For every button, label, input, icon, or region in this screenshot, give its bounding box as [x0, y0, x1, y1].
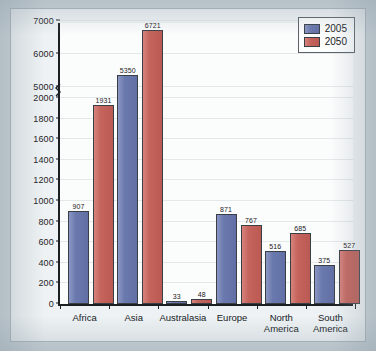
scanned-page: Population (in millions) 020040060080010… [0, 0, 376, 351]
x-axis-category-label: South America [313, 312, 348, 334]
y-axis-tick-label: 1400 [33, 155, 54, 165]
y-axis-tick-label: 400 [38, 258, 54, 268]
x-axis-category-label: Europe [217, 312, 248, 323]
x-axis-tick-mark [158, 304, 159, 309]
y-axis-tick-label: 5000 [33, 82, 54, 92]
y-axis-tick-label: 600 [38, 237, 54, 247]
y-axis-tick-label: 0 [49, 299, 54, 309]
y-axis-tick-label: 6000 [33, 49, 54, 59]
bar-value-label: 767 [245, 217, 257, 224]
x-axis-category-label: North America [264, 312, 299, 334]
bar-2050-south-america: 527 [339, 250, 360, 304]
legend-label-2050: 2050 [325, 36, 347, 47]
bar-value-label: 375 [318, 257, 330, 264]
bar-value-label: 871 [220, 206, 232, 213]
plot-area: 0200400600800100012001400160018002000500… [58, 23, 353, 306]
y-axis-tick-mark [56, 20, 60, 21]
x-axis-tick-mark [109, 304, 110, 309]
bar-2005-australasia: 33 [166, 301, 187, 304]
chart-frame: Population (in millions) 020040060080010… [10, 8, 366, 342]
bar-2005-africa: 907 [68, 211, 89, 304]
y-axis-tick-label: 800 [38, 217, 54, 227]
bar-value-label: 527 [343, 242, 355, 249]
x-axis-category-label: Africa [72, 312, 96, 323]
x-axis-tick-mark [60, 304, 61, 309]
x-axis-tick-mark [257, 304, 258, 309]
x-axis-category-label: Asia [125, 312, 143, 323]
x-axis-tick-mark [355, 304, 356, 309]
bar-value-label: 685 [294, 225, 306, 232]
y-axis-tick-label: 1800 [33, 114, 54, 124]
bar-2005-asia: 5350 [117, 75, 138, 304]
y-axis-tick-label: 1600 [33, 134, 54, 144]
bar-group: 516685 [257, 23, 306, 304]
legend-item-2050: 2050 [304, 35, 347, 48]
bar-value-label: 48 [198, 291, 206, 298]
y-axis-tick-label: 1200 [33, 175, 54, 185]
bar-2005-south-america: 375 [314, 265, 335, 304]
legend-item-2005: 2005 [304, 22, 347, 35]
legend-swatch-2050-icon [304, 37, 320, 47]
bar-group: 9071931 [60, 23, 109, 304]
bar-2005-north-america: 516 [265, 251, 286, 304]
y-axis-tick-label: 1000 [33, 196, 54, 206]
bar-value-label: 33 [173, 293, 181, 300]
chart-legend: 2005 2050 [298, 17, 355, 53]
bar-value-label: 516 [269, 243, 281, 250]
bar-value-label: 907 [73, 203, 85, 210]
bar-group: 871767 [208, 23, 257, 304]
y-axis-tick-label: 200 [38, 278, 54, 288]
x-axis-category-label: Australasia [159, 312, 206, 323]
bar-group: 3348 [158, 23, 207, 304]
bar-group: 375527 [306, 23, 355, 304]
y-axis-tick-label: 7000 [33, 16, 54, 26]
x-axis-tick-mark [208, 304, 209, 309]
x-axis-tick-mark [306, 304, 307, 309]
bar-group: 53506721 [109, 23, 158, 304]
y-axis-tick-label: 2000 [33, 93, 54, 103]
legend-swatch-2005-icon [304, 24, 320, 34]
bar-value-label: 5350 [120, 67, 136, 74]
legend-label-2005: 2005 [325, 23, 347, 34]
bar-2005-europe: 871 [216, 214, 237, 304]
